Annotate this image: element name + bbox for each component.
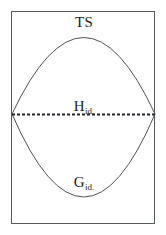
label-bottom-gid-base: G <box>74 174 85 190</box>
label-middle-hid-base: H <box>74 98 85 114</box>
label-top-ts: TS <box>75 15 93 30</box>
label-bottom-gid: Gid. <box>74 175 94 190</box>
label-middle-hid-subscript: id. <box>85 106 94 116</box>
figure-root: TS Hid. Gid. <box>0 0 166 235</box>
label-bottom-gid-subscript: id. <box>85 182 94 192</box>
lens-diagram-svg <box>0 0 166 235</box>
label-top-ts-base: TS <box>75 14 93 30</box>
label-middle-hid: Hid. <box>74 99 94 114</box>
